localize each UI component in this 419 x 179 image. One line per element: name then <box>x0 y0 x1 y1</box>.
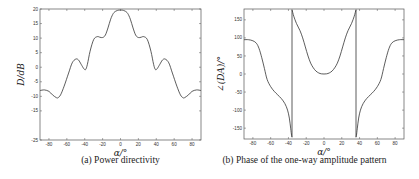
figure-power-directivity: -80-60-40-2002040608020151050-5-10-15-25… <box>0 0 210 179</box>
x-tick-label: 0 <box>323 141 326 146</box>
y-tick-label: -50 <box>235 90 242 95</box>
y-tick-label: -25 <box>31 138 38 143</box>
x-tick-label: -40 <box>81 142 88 147</box>
y-axis-label: D/dB <box>16 63 26 87</box>
x-tick-label: -40 <box>285 141 292 146</box>
data-line <box>292 10 356 74</box>
y-tick-label: 50 <box>237 54 243 59</box>
chart-power-directivity: -80-60-40-2002040608020151050-5-10-15-25… <box>0 0 210 179</box>
x-tick-label: 60 <box>375 141 381 146</box>
x-tick-label: 40 <box>154 142 160 147</box>
x-tick-label: 60 <box>172 142 178 147</box>
y-tick-label: 150 <box>234 17 242 22</box>
plot-frame <box>40 9 201 140</box>
x-tick-label: -20 <box>99 142 106 147</box>
x-tick-label: 20 <box>339 141 345 146</box>
x-tick-label: -60 <box>64 142 71 147</box>
y-tick-label: -15 <box>31 108 38 113</box>
y-tick-label: -5 <box>34 79 39 84</box>
y-tick-label: 0 <box>35 65 38 70</box>
y-tick-label: 15 <box>33 21 39 26</box>
y-tick-label: -10 <box>31 94 38 99</box>
y-tick-label: 10 <box>33 36 39 41</box>
figure-phase-pattern: -80-60-40-20020406080150100500-50-100-15… <box>210 0 419 179</box>
y-tick-label: 100 <box>234 35 242 40</box>
chart-phase-pattern: -80-60-40-20020406080150100500-50-100-15… <box>210 0 419 179</box>
x-tick-label: -80 <box>250 141 257 146</box>
x-tick-label: 20 <box>136 142 142 147</box>
x-tick-label: -20 <box>303 141 310 146</box>
y-tick-label: 0 <box>239 72 242 77</box>
caption-b: (b) Phase of the one-way amplitude patte… <box>200 155 409 165</box>
y-tick-label: 5 <box>35 50 38 55</box>
x-tick-label: 80 <box>189 142 195 147</box>
y-tick-label: -150 <box>233 126 243 131</box>
data-line <box>244 40 292 138</box>
data-line <box>356 40 404 138</box>
x-tick-label: 0 <box>119 142 122 147</box>
x-tick-label: -80 <box>46 142 53 147</box>
x-tick-label: -60 <box>267 141 274 146</box>
y-tick-label: 20 <box>33 7 39 12</box>
y-tick-label: -100 <box>233 108 243 113</box>
x-tick-label: 40 <box>357 141 363 146</box>
y-axis-label: ∠(DA)/° <box>216 56 226 92</box>
x-tick-label: 80 <box>393 141 399 146</box>
caption-a: (a) Power directivity <box>40 155 201 165</box>
data-line <box>40 10 201 98</box>
